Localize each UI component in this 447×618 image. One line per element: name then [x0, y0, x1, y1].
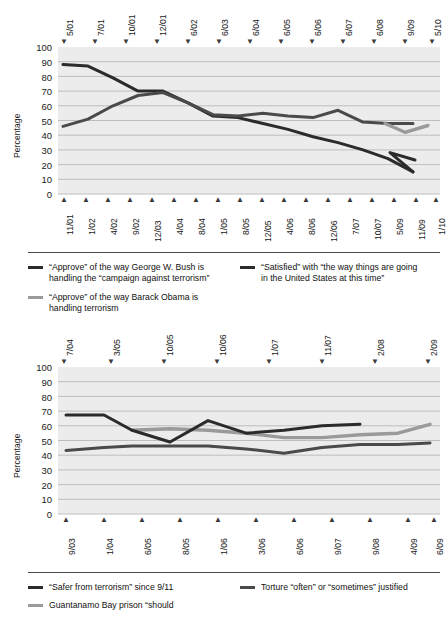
bottom-axis-arrow-icon: ▲ — [404, 516, 412, 524]
bottom-axis-tick-label: 8/04 — [198, 218, 207, 235]
bottom-axis-arrow-icon: ▲ — [170, 196, 178, 204]
bottom-axis-arrow-icon: ▲ — [176, 516, 184, 524]
bottom-axis-tick-label: 8/05 — [182, 538, 191, 555]
bottom-axis-arrow-icon: ▲ — [366, 516, 374, 524]
top-axis-tick-label: 7/01 — [97, 19, 106, 36]
bottom-axis-arrow-icon: ▲ — [324, 196, 332, 204]
bottom-axis-tick-label: 1/04 — [106, 538, 115, 555]
bottom-axis-arrow-icon: ▲ — [432, 196, 440, 204]
top-axis-tick-label: 12/01 — [159, 14, 168, 36]
top-axis-tick-label: 6/05 — [283, 19, 292, 36]
top-axis-tick-label: 10/06 — [219, 334, 228, 356]
bottom-axis-arrow-icon: ▲ — [280, 196, 288, 204]
legend-item-torture[interactable]: Torture “often” or “sometimes” justified — [240, 582, 445, 593]
bottom-axis-tick-label: 6/06 — [296, 538, 305, 555]
top-axis-tick-label: 1/07 — [271, 339, 280, 356]
bottom-axis-arrow-icon: ▲ — [252, 516, 260, 524]
top-axis-arrow-icon: ▼ — [339, 38, 347, 46]
bottom-axis-tick-label: 3/06 — [258, 538, 267, 555]
bottom-axis-arrow-icon: ▲ — [290, 516, 298, 524]
top-legend-divider — [28, 252, 440, 253]
top-axis-tick-label: 2/09 — [430, 339, 439, 356]
top-axis-tick-label: 6/08 — [376, 19, 385, 36]
top-axis-arrow-icon: ▼ — [277, 38, 285, 46]
bottom-axis-arrow-icon: ▲ — [82, 196, 90, 204]
top-axis-arrow-icon: ▼ — [107, 358, 115, 366]
bottom-axis-arrow-icon: ▲ — [328, 516, 336, 524]
bottom-axis-arrow-icon: ▲ — [126, 196, 134, 204]
bottom-axis-arrow-icon: ▲ — [346, 196, 354, 204]
bottom-chart: Percentage 100 90 80 70 60 50 40 30 20 1… — [0, 320, 447, 618]
bottom-axis-arrow-icon: ▲ — [214, 516, 222, 524]
bottom-chart-legend: “Safer from terrorism” since 9/11 Tortur… — [0, 572, 447, 618]
bottom-axis-tick-label: 9/07 — [334, 538, 343, 555]
bottom-axis-arrow-icon: ▲ — [148, 196, 156, 204]
legend-item-bush-approve[interactable]: “Approve” of the way George W. Bush is h… — [28, 262, 233, 284]
legend-item-guantanamo[interactable]: Guantanamo Bay prison “should — [28, 600, 233, 611]
legend-swatch-icon — [28, 604, 43, 607]
bottom-axis-tick-label: 9/03 — [68, 538, 77, 555]
legend-label: “Satisfied” with “the way things are goi… — [261, 262, 417, 284]
bottom-axis-tick-label: 9/08 — [372, 538, 381, 555]
top-axis-tick-label: 3/05 — [113, 339, 122, 356]
bottom-axis-tick-label: 4/04 — [176, 218, 185, 235]
top-axis-tick-label: 9/09 — [407, 19, 416, 36]
top-axis-tick-label: 6/02 — [190, 19, 199, 36]
bottom-axis-tick-label: 4/02 — [110, 218, 119, 235]
top-axis-tick-label: 5/10 — [434, 19, 443, 36]
top-axis-arrow-icon: ▼ — [318, 358, 326, 366]
bottom-axis-arrow-icon: ▲ — [104, 196, 112, 204]
legend-label: “Approve” of the way Barack Obama is han… — [49, 292, 198, 314]
top-axis-tick-label: 11/07 — [324, 335, 333, 356]
bottom-axis-arrow-icon: ▲ — [302, 196, 310, 204]
top-axis-arrow-icon: ▼ — [246, 38, 254, 46]
top-axis-arrow-icon: ▼ — [60, 358, 68, 366]
bottom-axis-tick-label: 8/05 — [242, 218, 251, 235]
top-axis-arrow-icon: ▼ — [153, 38, 161, 46]
legend-label: Guantanamo Bay prison “should — [49, 600, 174, 611]
top-axis-arrow-icon: ▼ — [184, 38, 192, 46]
bottom-axis-arrow-icon: ▲ — [100, 516, 108, 524]
bottom-axis-arrow-icon: ▲ — [430, 516, 438, 524]
top-axis-arrow-icon: ▼ — [215, 38, 223, 46]
legend-label: “Approve” of the way George W. Bush is h… — [49, 262, 209, 284]
bottom-axis-arrow-icon: ▲ — [138, 516, 146, 524]
legend-swatch-icon — [28, 586, 43, 589]
top-axis-arrow-icon: ▼ — [308, 38, 316, 46]
top-axis-arrow-icon: ▼ — [424, 358, 432, 366]
top-axis-arrow-icon: ▼ — [122, 38, 130, 46]
legend-label: Torture “often” or “sometimes” justified — [261, 582, 408, 593]
top-axis-arrow-icon: ▼ — [370, 38, 378, 46]
legend-item-safer[interactable]: “Safer from terrorism” since 9/11 — [28, 582, 233, 593]
top-axis-arrow-icon: ▼ — [371, 358, 379, 366]
bottom-axis-tick-label: 12/05 — [264, 220, 273, 242]
bottom-axis-tick-label: 1/05 — [220, 218, 229, 235]
bottom-axis-tick-label: 8/06 — [308, 218, 317, 235]
legend-swatch-icon — [28, 266, 43, 269]
top-chart: Percentage 100 90 80 70 60 50 40 30 20 1… — [0, 0, 447, 316]
top-axis-arrow-icon: ▼ — [265, 358, 273, 366]
top-axis-tick-label: 6/06 — [314, 19, 323, 36]
bottom-axis-tick-label: 11/01 — [66, 214, 75, 235]
legend-item-satisfied[interactable]: “Satisfied” with “the way things are goi… — [240, 262, 445, 284]
legend-item-obama-approve[interactable]: “Approve” of the way Barack Obama is han… — [28, 292, 233, 314]
bottom-axis-tick-label: 1/06 — [220, 538, 229, 555]
top-axis-arrow-icon: ▼ — [91, 38, 99, 46]
legend-swatch-icon — [240, 266, 255, 269]
bottom-axis-tick-label: 1/10 — [438, 218, 447, 235]
bottom-axis-arrow-icon: ▲ — [60, 196, 68, 204]
bottom-axis-tick-label: 12/03 — [154, 220, 163, 242]
bottom-axis-arrow-icon: ▲ — [192, 196, 200, 204]
bottom-axis-tick-label: 6/09 — [436, 538, 445, 555]
bottom-axis-arrow-icon: ▲ — [390, 196, 398, 204]
bottom-axis-tick-label: 11/09 — [418, 219, 427, 240]
bottom-axis-tick-label: 1/02 — [88, 218, 97, 235]
top-axis-tick-label: 6/04 — [252, 19, 261, 36]
chart-page: Percentage 100 90 80 70 60 50 40 30 20 1… — [0, 0, 447, 618]
top-axis-arrow-icon: ▼ — [428, 38, 436, 46]
top-axis-arrow-icon: ▼ — [60, 38, 68, 46]
bottom-legend-divider — [28, 572, 440, 573]
bottom-axis-arrow-icon: ▲ — [214, 196, 222, 204]
bottom-axis-arrow-icon: ▲ — [368, 196, 376, 204]
bottom-axis-tick-label: 9/02 — [132, 218, 141, 235]
